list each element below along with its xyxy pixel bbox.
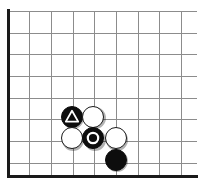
- grid-line-vertical-1: [29, 11, 30, 175]
- grid-line-vertical-6: [138, 11, 139, 175]
- grid-line-horizontal-3: [8, 76, 198, 77]
- left-edge: [7, 9, 10, 178]
- go-board-diagram: [0, 0, 204, 185]
- stone-black-triangle[interactable]: [61, 106, 83, 128]
- grid-line-vertical-7: [159, 11, 160, 175]
- stone-white-upper-right[interactable]: [82, 106, 104, 128]
- grid-line-horizontal-7: [8, 163, 198, 164]
- grid-line-horizontal-1: [8, 33, 198, 34]
- bottom-edge: [7, 175, 198, 178]
- grid-line-horizontal-4: [8, 98, 198, 99]
- grid-line-vertical-2: [51, 11, 52, 175]
- stone-white-lower-left[interactable]: [61, 127, 83, 149]
- stone-black-bottom[interactable]: [105, 149, 127, 171]
- grid-line-vertical-8: [181, 11, 182, 175]
- stone-white-right[interactable]: [105, 127, 127, 149]
- grid-line-horizontal-0: [8, 11, 198, 12]
- grid-line-horizontal-2: [8, 54, 198, 55]
